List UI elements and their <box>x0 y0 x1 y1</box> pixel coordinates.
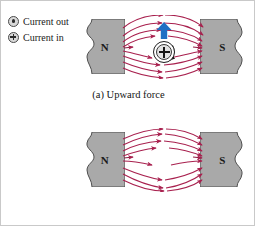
caption-panel-a: (a) Upward force <box>1 89 255 100</box>
magnetic-force-figure: Current out Current in N S <box>0 0 255 226</box>
legend-label-current-in: Current in <box>23 32 64 43</box>
current-in-cross-horizontal <box>159 51 170 53</box>
magnetic-field-lines-b <box>119 128 207 192</box>
panel-downward-force: N S <box>1 114 255 226</box>
circle-cross-icon <box>8 32 19 43</box>
legend-item-current-in: Current in <box>8 30 94 44</box>
legend-item-current-out: Current out <box>8 14 94 28</box>
legend-label-current-out: Current out <box>23 16 69 27</box>
force-arrow-up-icon <box>156 22 172 39</box>
circle-dot-icon <box>8 16 19 27</box>
current-direction-legend: Current out Current in <box>8 14 94 46</box>
panel-upward-force: Current out Current in N S <box>1 1 255 114</box>
current-in-symbol <box>153 41 175 63</box>
